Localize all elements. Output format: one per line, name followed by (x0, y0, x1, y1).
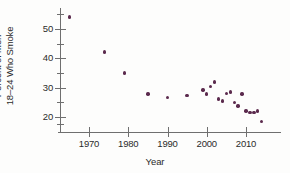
scatter-chart-figure: 20304050 19701980199020002010 Percent of… (0, 0, 290, 173)
data-point (205, 92, 208, 95)
data-point (225, 92, 228, 95)
data-point (260, 120, 263, 123)
plot-area (0, 0, 290, 173)
data-point (146, 92, 149, 95)
x-axis-title: Year (110, 156, 200, 167)
data-point (240, 92, 243, 95)
data-point (233, 101, 236, 104)
data-point (221, 99, 224, 102)
data-point (166, 96, 169, 99)
data-point (236, 104, 239, 107)
data-point (103, 50, 106, 53)
data-point (68, 15, 71, 18)
data-point (217, 97, 220, 100)
data-point (123, 71, 126, 74)
data-point (213, 80, 216, 83)
data-point (244, 109, 247, 112)
data-point (256, 109, 259, 112)
data-point (209, 85, 212, 88)
y-axis-title-line-2: 18–24 Who Smoke (4, 6, 16, 126)
y-axis-title: Percent of Men 18–24 Who Smoke (0, 6, 15, 126)
data-point (248, 111, 251, 114)
data-point (252, 111, 255, 114)
data-point (185, 94, 188, 97)
data-point (229, 90, 232, 93)
data-point (201, 88, 204, 91)
